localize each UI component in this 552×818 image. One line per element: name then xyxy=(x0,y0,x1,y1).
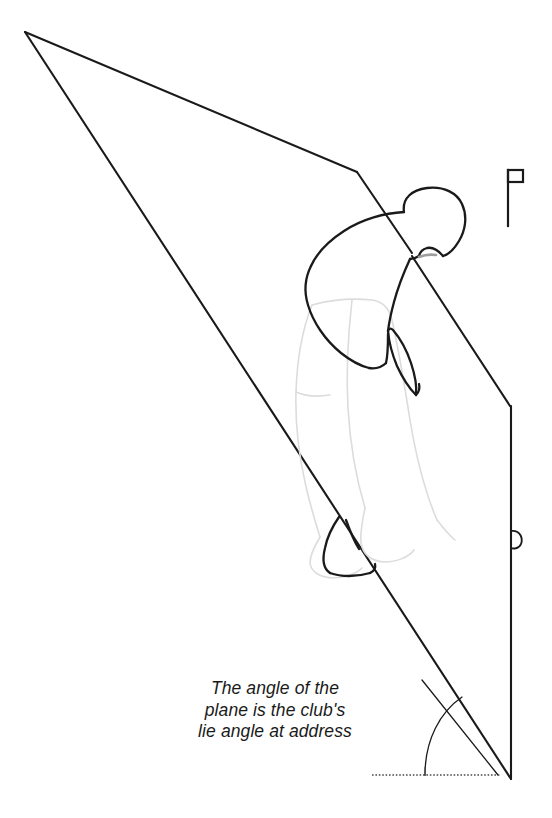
caption-line-2: plane is the club's xyxy=(150,700,400,722)
plane-top-edge-upper xyxy=(25,32,357,172)
golfer-torso-left xyxy=(306,266,369,368)
caption-line-3: lie angle at address xyxy=(150,721,400,743)
plane-diagonal-edge xyxy=(25,32,511,779)
golfer-arm-crease xyxy=(386,334,388,363)
golfer-hip xyxy=(369,363,386,368)
plane-edge-loop-detail xyxy=(511,531,522,549)
figure-root: The angle of the plane is the club's lie… xyxy=(0,0,552,818)
golfer-shoe xyxy=(324,517,376,576)
golfer-lower-body-faint xyxy=(296,299,455,578)
lie-angle-arc xyxy=(425,697,462,775)
swing-plane-quadrilateral xyxy=(25,32,511,779)
caption-line-1: The angle of the xyxy=(150,678,400,700)
golfer-arm-inner xyxy=(388,329,416,395)
golfer-chin-shade xyxy=(419,255,436,257)
plane-top-edge-lower xyxy=(412,256,510,406)
flagstick-icon xyxy=(508,170,523,226)
golfer-figure xyxy=(306,188,466,395)
club-shaft-line xyxy=(422,680,498,775)
caption: The angle of the plane is the club's lie… xyxy=(150,678,400,743)
golfer-head xyxy=(404,188,466,256)
flag-banner xyxy=(508,170,523,182)
